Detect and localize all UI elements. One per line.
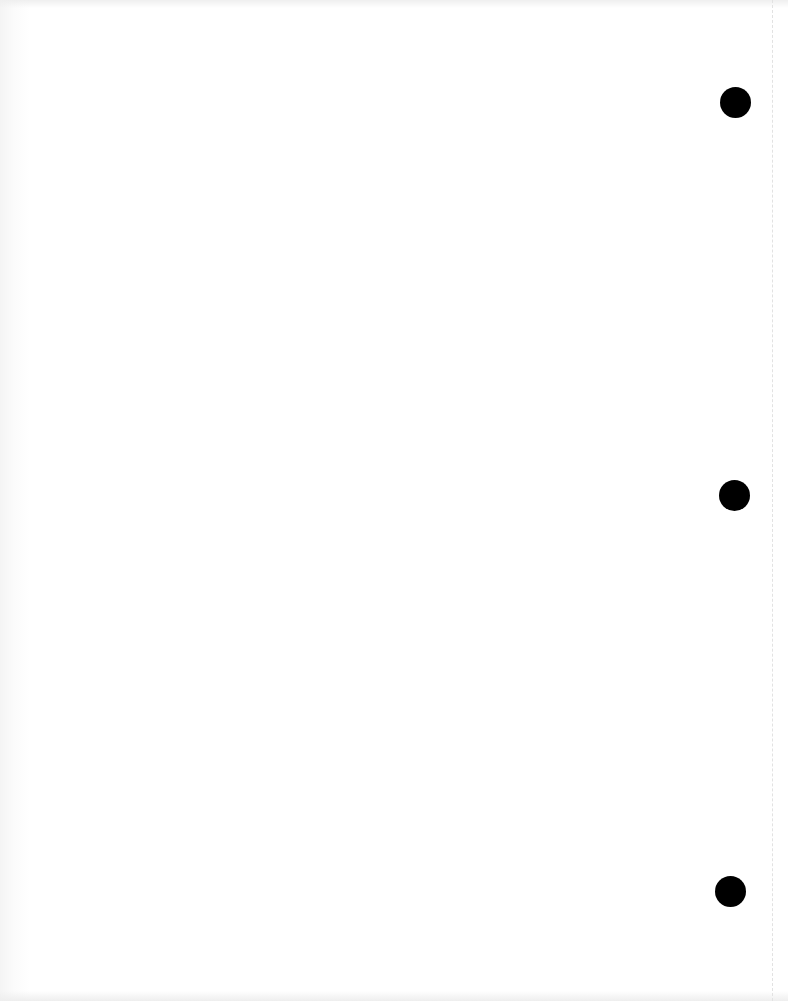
punch-hole-middle [719,480,750,511]
page-edge-line [772,0,773,1001]
punch-hole-bottom [715,876,746,907]
scan-top-shadow [0,0,788,8]
blank-page [0,0,788,1001]
punch-hole-top [720,87,751,118]
scan-bottom-shadow [0,991,788,1001]
